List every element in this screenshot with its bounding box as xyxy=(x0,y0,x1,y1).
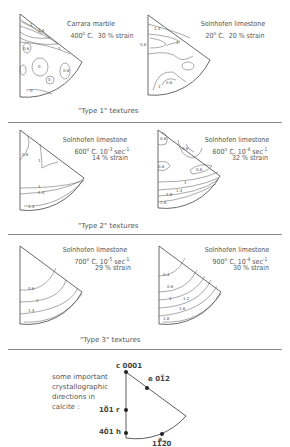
divider xyxy=(8,234,282,235)
panel-strain: 32 % strain xyxy=(215,154,285,163)
svg-text:1.8: 1.8 xyxy=(163,316,170,321)
panel-material: Solnhofen limestone xyxy=(50,136,140,145)
svg-text:0.6: 0.6 xyxy=(167,284,174,289)
panel-material: Solnhofen limestone xyxy=(50,246,140,255)
svg-text:1.6: 1.6 xyxy=(179,306,186,311)
panel-conditions: 20o C. 20 % strain xyxy=(195,29,275,41)
panel-material: Solnhofen limestone xyxy=(188,20,278,29)
panel-material: Carrara marble xyxy=(55,20,127,29)
caption-type1: "Type 1" textures xyxy=(78,107,138,115)
svg-text:0.6: 0.6 xyxy=(196,167,203,172)
svg-text:1: 1 xyxy=(38,158,41,163)
svg-text:0.6: 0.6 xyxy=(28,286,35,291)
svg-text:1.2: 1.2 xyxy=(183,296,190,301)
direction-c: c 0001 xyxy=(116,362,142,370)
svg-text:1.4: 1.4 xyxy=(28,308,35,313)
panel-strain: 30 % strain xyxy=(216,264,286,273)
caption-type2: "Type 2" textures xyxy=(78,222,138,230)
panel-strain: 14 % strain xyxy=(75,154,145,163)
svg-text:1: 1 xyxy=(184,180,187,185)
svg-text:1.4: 1.4 xyxy=(38,190,45,195)
svg-text:0.6: 0.6 xyxy=(166,80,173,85)
svg-text:1: 1 xyxy=(158,84,161,89)
svg-text:0.6: 0.6 xyxy=(63,68,70,73)
svg-text:1.8: 1.8 xyxy=(166,192,173,197)
svg-text:0.6: 0.6 xyxy=(22,152,29,157)
svg-text:0.6: 0.6 xyxy=(160,136,167,141)
direction-e: e 01̅2 xyxy=(148,375,170,383)
direction-h: 40̄1 h xyxy=(99,428,121,436)
svg-text:0.6: 0.6 xyxy=(140,42,147,47)
panel-strain: 29 % strain xyxy=(78,264,148,273)
svg-text:1.4: 1.4 xyxy=(154,26,161,31)
svg-text:1.4: 1.4 xyxy=(176,188,183,193)
panel-material: Solnhofen limestone xyxy=(192,136,282,145)
direction-r: 10̅1 r xyxy=(99,406,120,414)
divider xyxy=(8,122,282,123)
svg-text:0: 0 xyxy=(38,64,41,69)
svg-text:1: 1 xyxy=(30,22,33,27)
panel-material: Solnhofen limestone xyxy=(192,246,282,255)
svg-text:1: 1 xyxy=(58,46,61,51)
svg-text:1.4: 1.4 xyxy=(38,28,45,33)
svg-text:0: 0 xyxy=(48,77,51,82)
svg-text:0.6: 0.6 xyxy=(158,164,165,169)
svg-text:1.4: 1.4 xyxy=(28,204,35,209)
svg-text:0.6: 0.6 xyxy=(182,146,189,151)
svg-text:0: 0 xyxy=(30,88,33,93)
svg-text:1.8: 1.8 xyxy=(160,200,167,205)
svg-text:0.6: 0.6 xyxy=(23,46,30,51)
direction-a: 11̅2̅0 xyxy=(152,440,171,447)
svg-text:0.4: 0.4 xyxy=(163,272,170,277)
panel-conditions: 400o C. 30 % strain xyxy=(62,29,142,41)
svg-text:1: 1 xyxy=(38,184,41,189)
